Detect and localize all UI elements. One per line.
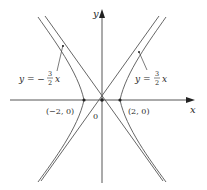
asymptote-label-right: y = 3 2 x <box>134 70 167 87</box>
svg-text:y = −: y = − <box>18 74 45 84</box>
fraction-denominator: 2 <box>48 79 52 87</box>
vertex-left-point <box>82 98 85 101</box>
fraction-numerator: 3 <box>155 70 159 78</box>
asymptote-label-left: y = − 3 2 x <box>18 70 60 87</box>
svg-text:x: x <box>55 74 60 84</box>
svg-text:y =: y = <box>134 74 151 84</box>
asymptote-negative <box>45 16 163 181</box>
vertex-right-point <box>118 98 121 101</box>
asymptote-positive <box>41 16 159 181</box>
y-axis-label: y <box>92 8 99 19</box>
leader-dot-right <box>138 51 140 53</box>
x-axis-label: x <box>190 104 196 115</box>
hyperbola-right-branch <box>120 17 166 182</box>
origin-label: 0 <box>93 112 98 121</box>
fraction-numerator: 3 <box>48 70 52 78</box>
y-axis-arrow-icon <box>99 9 105 18</box>
leader-line-right <box>139 52 147 70</box>
hyperbola-left-branch <box>38 17 84 182</box>
svg-text:x: x <box>162 74 167 84</box>
origin-point <box>100 98 104 102</box>
vertex-left-label: (−2, 0) <box>46 107 74 116</box>
vertex-right-label: (2, 0) <box>128 107 150 116</box>
x-axis-arrow-icon <box>186 97 195 103</box>
leader-dot-left <box>62 45 64 47</box>
hyperbola-diagram: y x 0 (−2, 0) (2, 0) y = − 3 2 x y = 3 2… <box>0 0 207 190</box>
fraction-denominator: 2 <box>155 79 159 87</box>
